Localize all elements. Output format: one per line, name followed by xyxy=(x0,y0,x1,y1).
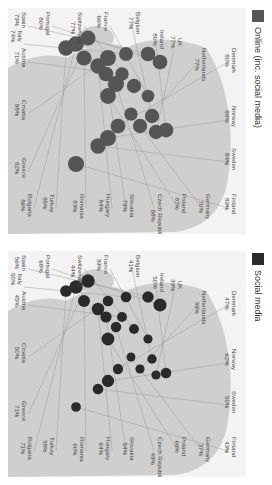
country-label: Hungary64% xyxy=(98,437,112,460)
country-label: Austria71% xyxy=(14,48,28,67)
bubble-czech-republic xyxy=(111,322,122,333)
country-value: 49% xyxy=(150,437,157,477)
country-label: Poland66% xyxy=(174,437,188,456)
bubble-croatia xyxy=(103,296,114,307)
country-label: Spain79% xyxy=(14,12,28,28)
country-label: Denmark47% xyxy=(224,291,238,316)
country-value: 77% xyxy=(194,48,201,81)
country-label: Finland43% xyxy=(224,437,238,457)
bubble-austria xyxy=(117,312,127,322)
country-name: Ireland xyxy=(159,273,166,292)
country-name: UK xyxy=(177,36,184,48)
bubble-poland xyxy=(102,333,115,346)
country-name: Poland xyxy=(181,437,188,456)
country-value: 84% xyxy=(224,148,231,170)
country-value: 39% xyxy=(194,291,201,324)
country-value: 50% xyxy=(10,273,17,285)
country-name: Hungary xyxy=(105,194,112,217)
country-name: Greece xyxy=(21,401,28,421)
country-name: Romania xyxy=(79,194,86,219)
country-label: Croatia88% xyxy=(14,100,28,120)
bubble-ireland xyxy=(161,368,172,379)
country-label: UK39% xyxy=(170,279,184,291)
country-value: 79% xyxy=(122,194,129,217)
country-name: Germany xyxy=(205,194,212,219)
country-value: 77% xyxy=(70,12,77,44)
country-name: Finland xyxy=(231,437,238,457)
country-value: 50% xyxy=(14,343,21,363)
bubble-norway xyxy=(102,375,114,387)
country-label: Belgium77% xyxy=(128,12,142,34)
country-value: 66% xyxy=(96,12,103,31)
country-name: Denmark xyxy=(231,48,238,73)
social-media-map-panel: Social media Finland43%Sweden50%Norway62… xyxy=(0,243,272,485)
country-name: Poland xyxy=(181,194,188,213)
legend-online: Online (inc. social media) xyxy=(252,10,264,128)
country-name: Belgium xyxy=(135,12,142,34)
bubble-denmark xyxy=(111,119,126,134)
country-name: Finland xyxy=(231,194,238,214)
bubble-netherlands xyxy=(133,119,147,133)
country-name: Norway xyxy=(231,349,238,370)
country-label: Portugal80% xyxy=(38,12,52,35)
bubble-ireland xyxy=(159,123,174,138)
country-name: Italy xyxy=(17,273,24,285)
country-name: Portugal xyxy=(45,12,52,35)
bubble-finland xyxy=(68,156,84,172)
country-value: 88% xyxy=(224,106,231,127)
country-value: 87% xyxy=(174,194,181,213)
country-label: Czech Republic88% xyxy=(150,194,164,234)
country-label: Bulgaria71% xyxy=(20,437,34,460)
bubble-croatia xyxy=(100,50,116,66)
country-value: 43% xyxy=(224,437,231,457)
country-value: 47% xyxy=(224,291,231,316)
europe-map-social: Finland43%Sweden50%Norway62%Denmark47%Ge… xyxy=(8,251,246,477)
bubble-finland xyxy=(71,402,81,412)
bubble-portugal xyxy=(153,298,166,311)
country-label: Netherlands39% xyxy=(194,291,208,324)
country-label: UK77% xyxy=(170,36,184,48)
country-label: Romania60% xyxy=(72,437,86,462)
country-name: Spain xyxy=(21,255,28,271)
country-value: 89% xyxy=(224,194,231,214)
bubble-spain xyxy=(142,291,153,302)
country-name: Belgium xyxy=(135,255,142,277)
country-name: Austria xyxy=(21,291,28,310)
bubble-belgium xyxy=(147,354,156,363)
legend-label-online: Online (inc. social media) xyxy=(253,27,263,128)
bubble-netherlands xyxy=(135,364,144,373)
country-label: Czech Republic49% xyxy=(150,437,164,477)
country-value: 64% xyxy=(98,437,105,460)
country-label: Greece71% xyxy=(14,401,28,421)
country-name: Slovakia xyxy=(129,194,136,217)
country-name: Norway xyxy=(231,106,238,127)
country-value: 79% xyxy=(14,12,21,28)
legend-swatch-social xyxy=(252,253,264,265)
country-value: 88% xyxy=(150,194,157,234)
country-value: 71% xyxy=(14,401,21,421)
country-label: Greece82% xyxy=(14,158,28,178)
country-name: Sweden xyxy=(231,148,238,170)
country-value: 88% xyxy=(14,100,21,120)
country-name: France xyxy=(103,255,110,274)
country-label: Denmark80% xyxy=(224,48,238,73)
online-map-panel: Online (inc. social media) Finland89%Swe… xyxy=(0,0,272,242)
country-value: 44% xyxy=(70,255,77,287)
country-value: 70% xyxy=(198,194,205,219)
country-name: Bulgaria xyxy=(27,437,34,460)
bubble-germany xyxy=(124,107,137,120)
bubble-hungary xyxy=(92,303,105,316)
country-label: Slovakia54% xyxy=(122,437,136,460)
country-label: Germany70% xyxy=(198,194,212,219)
country-label: France39% xyxy=(96,255,110,274)
country-name: Austria xyxy=(21,48,28,67)
bubble-france xyxy=(142,90,155,103)
country-value: 77% xyxy=(170,36,177,48)
bubble-denmark xyxy=(113,364,123,374)
country-label: Hungary84% xyxy=(98,194,112,217)
country-name: Slovakia xyxy=(129,437,136,460)
country-label: Croatia50% xyxy=(14,343,28,363)
bubble-italy xyxy=(121,292,132,303)
country-label: Finland89% xyxy=(224,194,238,214)
country-label: Switzerland77% xyxy=(70,12,84,44)
